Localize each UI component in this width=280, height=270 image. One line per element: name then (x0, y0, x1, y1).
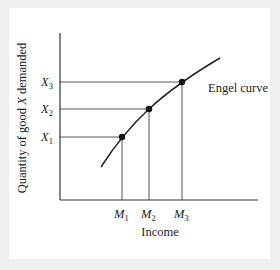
x-tick-m2: M2 (140, 207, 156, 223)
x-axis-label: Income (141, 225, 179, 239)
engel-curve (101, 58, 220, 167)
y-tick-x2: X2 (40, 102, 53, 118)
engel-curve-diagram: Engel curve X3 X2 X1 M1 M2 M3 Income Qua… (0, 0, 280, 270)
y-tick-x3: X3 (40, 75, 53, 91)
x-tick-m1: M1 (113, 207, 129, 223)
curve-label: Engel curve (208, 81, 268, 95)
point-3 (179, 79, 185, 85)
x-tick-m3: M3 (173, 207, 189, 223)
y-axis-label: Quantity of good X demanded (15, 42, 29, 193)
y-tick-x1: X1 (40, 130, 53, 146)
point-2 (146, 106, 152, 112)
point-1 (119, 134, 125, 140)
